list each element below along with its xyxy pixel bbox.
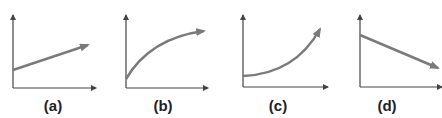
panel-a-label: (a) [44,97,62,114]
panel-b-label: (b) [153,97,172,114]
curve-linear-increasing [13,45,88,70]
panel-c [243,15,328,87]
panel-c-label: (c) [269,97,287,114]
curve-concave-increasing [126,31,204,79]
panel-b [126,15,208,88]
panel-a [13,15,96,88]
curve-convex-increasing [243,29,320,76]
panel-d-label: (d) [377,97,396,114]
curve-linear-decreasing [360,35,438,68]
panel-d [360,15,442,87]
figure-canvas [0,0,442,118]
